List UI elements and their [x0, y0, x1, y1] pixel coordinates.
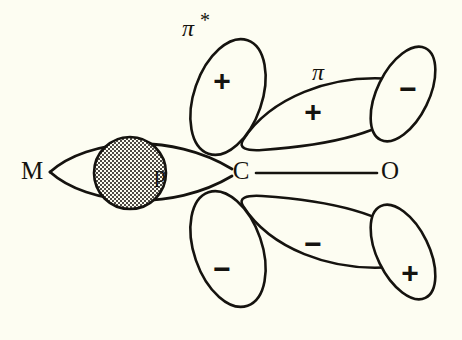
- sign-pi-upper-right: −: [399, 72, 417, 105]
- pi-star-superscript: *: [200, 9, 210, 31]
- lower-orbital-group: − − +: [176, 181, 448, 317]
- atom-label-carbon: C: [233, 157, 250, 184]
- molecular-orbital-diagram: p M C O + + − π * π: [0, 0, 462, 340]
- sign-pi-lower-right: +: [401, 256, 419, 289]
- atom-label-oxygen: O: [381, 157, 399, 184]
- sign-pi-star-upper-left: +: [213, 64, 231, 97]
- sign-pi-star-lower-left: −: [213, 252, 231, 285]
- sign-pi-upper-middle: +: [304, 95, 322, 128]
- sign-pi-lower-middle: −: [304, 227, 322, 260]
- upper-orbital-group: + + − π * π: [176, 9, 448, 165]
- pi-star-label: π: [182, 15, 195, 41]
- pi-label: π: [312, 59, 325, 85]
- atom-label-metal: M: [21, 157, 43, 184]
- p-orbital-label: p: [154, 162, 166, 187]
- diagram-canvas: p M C O + + − π * π: [0, 0, 462, 340]
- atom-backbone-group: M C O: [21, 157, 399, 184]
